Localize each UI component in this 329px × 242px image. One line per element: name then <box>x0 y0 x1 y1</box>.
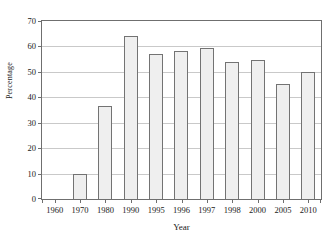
x-axis-tick <box>105 199 106 203</box>
bar-slot <box>194 21 219 199</box>
x-axis-tick-label: 1990 <box>122 205 139 215</box>
y-axis-tick-label: 10 <box>28 169 37 179</box>
bar-1970 <box>73 174 87 199</box>
bar-series <box>42 21 321 199</box>
bar-2000 <box>251 60 265 199</box>
bar-2005 <box>276 84 290 199</box>
bar-slot <box>169 21 194 199</box>
bar-chart-figure: Percentage 010203040506070 1960197019801… <box>0 0 329 242</box>
y-axis-tick-label: 20 <box>28 143 37 153</box>
bar-slot <box>42 21 67 199</box>
x-axis-tick-label: 2005 <box>274 205 291 215</box>
x-axis-tick <box>182 199 183 203</box>
bar-slot <box>118 21 143 199</box>
x-axis-tick-label: 1995 <box>148 205 165 215</box>
bar-slot <box>296 21 321 199</box>
y-axis-title: Percentage <box>5 46 14 116</box>
x-axis-tick-label: 1970 <box>72 205 89 215</box>
x-axis-tick-label: 2010 <box>300 205 317 215</box>
x-axis-tick <box>55 199 56 203</box>
y-axis-tick-label: 30 <box>28 118 37 128</box>
x-axis-tick-label: 1960 <box>46 205 63 215</box>
x-axis-tick <box>308 199 309 203</box>
y-axis-tick-label: 70 <box>28 16 37 26</box>
x-axis-tick <box>156 199 157 203</box>
y-axis-tick-label: 40 <box>28 92 37 102</box>
x-axis-tick-label: 1998 <box>224 205 241 215</box>
bar-1995 <box>149 54 163 199</box>
cut-off-caption <box>18 0 318 8</box>
x-axis-tick-label: 2000 <box>249 205 266 215</box>
x-axis-tick-label: 1997 <box>198 205 215 215</box>
bar-1998 <box>225 62 239 199</box>
bar-slot <box>270 21 295 199</box>
x-axis-tick <box>258 199 259 203</box>
plot-area: 010203040506070 196019701980199019951996… <box>41 20 322 200</box>
x-axis-tick <box>131 199 132 203</box>
x-axis-tick-label: 1996 <box>173 205 190 215</box>
x-axis-edge-tick <box>42 199 43 203</box>
bar-1996 <box>174 51 188 199</box>
x-axis-tick <box>283 199 284 203</box>
bar-slot <box>220 21 245 199</box>
y-axis-tick-label: 0 <box>32 194 36 204</box>
x-axis-tick <box>232 199 233 203</box>
bar-slot <box>143 21 168 199</box>
y-axis-tick-label: 50 <box>28 67 37 77</box>
bar-2010 <box>301 72 315 199</box>
bar-slot <box>93 21 118 199</box>
bar-slot <box>245 21 270 199</box>
bar-1990 <box>124 36 138 199</box>
x-axis-tick <box>80 199 81 203</box>
x-axis-tick-label: 1980 <box>97 205 114 215</box>
x-axis-tick <box>207 199 208 203</box>
bar-1997 <box>200 48 214 199</box>
x-axis-edge-tick <box>320 199 321 203</box>
bar-slot <box>67 21 92 199</box>
bar-1980 <box>98 106 112 199</box>
y-axis-tick-label: 60 <box>28 41 37 51</box>
x-axis-title: Year <box>41 222 322 232</box>
